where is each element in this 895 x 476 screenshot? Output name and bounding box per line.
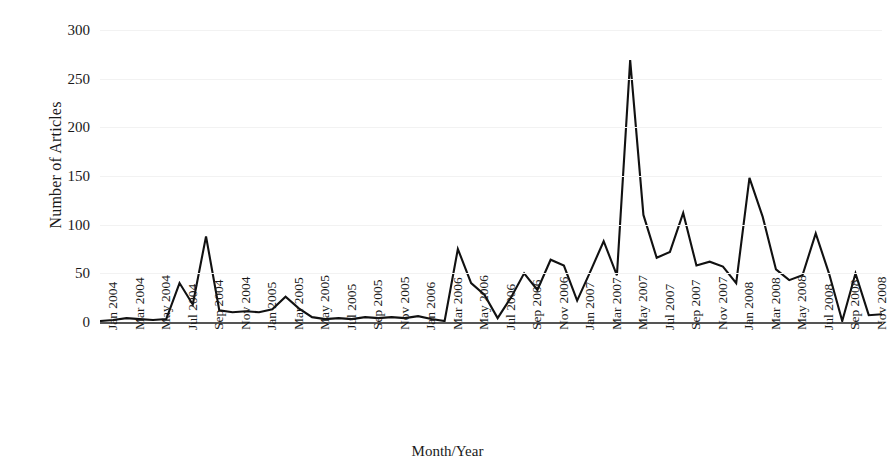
line-chart: Number of Articles 050100150200250300 Ja…: [0, 0, 895, 476]
x-axis-title: Month/Year: [0, 443, 895, 460]
x-axis-tick-labels: Jan 2004Mar 2004May 2004Jul 2004Sep 2004…: [0, 0, 895, 476]
